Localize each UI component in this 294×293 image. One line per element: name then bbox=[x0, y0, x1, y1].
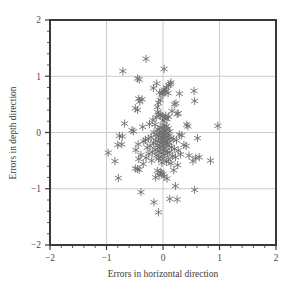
y-axis-title: Errors in depth direction bbox=[8, 86, 18, 179]
x-tick-label: 0 bbox=[161, 253, 166, 263]
y-tick-label: 0 bbox=[36, 128, 41, 138]
x-axis-tick-labels: −2−1012 bbox=[45, 253, 279, 263]
y-tick-label: −2 bbox=[31, 240, 41, 250]
y-tick-label: 2 bbox=[36, 15, 41, 25]
y-axis-tick-labels: −2−1012 bbox=[31, 15, 41, 250]
y-tick-label: −1 bbox=[31, 184, 41, 194]
x-tick-label: 2 bbox=[274, 253, 279, 263]
scatter-plot-figure: −2−1012 −2−1012 Errors in horizontal dir… bbox=[0, 0, 294, 293]
x-axis-title: Errors in horizontal direction bbox=[108, 269, 219, 279]
y-tick-label: 1 bbox=[36, 72, 41, 82]
x-tick-label: −1 bbox=[101, 253, 111, 263]
x-tick-label: −2 bbox=[45, 253, 55, 263]
x-tick-label: 1 bbox=[217, 253, 222, 263]
plot-canvas: −2−1012 −2−1012 Errors in horizontal dir… bbox=[0, 0, 294, 293]
